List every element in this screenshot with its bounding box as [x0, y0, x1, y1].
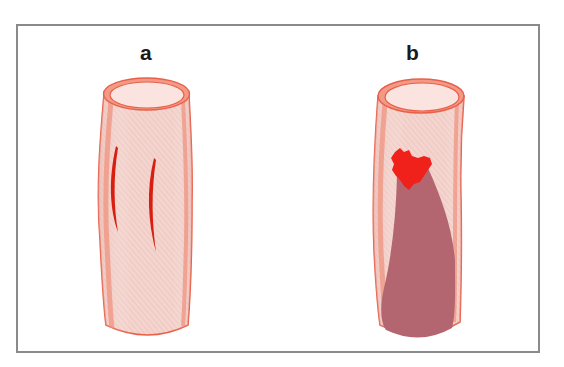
vessel-b — [373, 79, 464, 338]
vessel-a — [98, 78, 192, 335]
diagram-artwork — [0, 0, 564, 367]
